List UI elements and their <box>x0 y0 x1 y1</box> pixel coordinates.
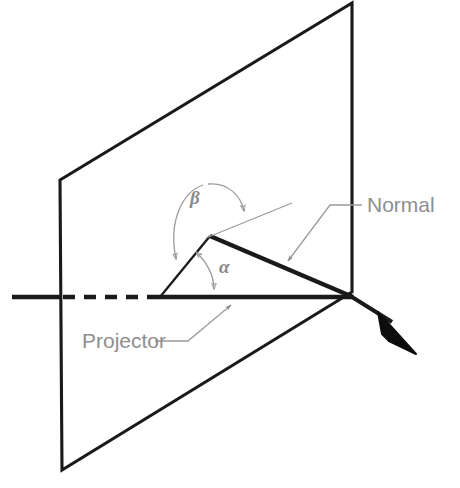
oblique-projection-diagram: β α Normal Projector <box>0 0 460 488</box>
projector-leader-line <box>155 305 231 341</box>
alpha-arc <box>196 252 214 289</box>
projector-annotation: Projector <box>82 305 231 352</box>
projector-beyond-plane <box>352 297 392 322</box>
normal-line <box>210 236 353 297</box>
normal-ray <box>210 236 353 297</box>
normal-extension-line <box>206 203 292 238</box>
projector-label: Projector <box>82 329 166 352</box>
diagram-canvas: β α Normal Projector <box>0 0 460 488</box>
beta-arc-right <box>208 184 244 211</box>
triangle-left-edge <box>160 236 210 297</box>
projector-ray <box>12 297 416 354</box>
normal-label: Normal <box>367 193 435 216</box>
projection-plane <box>60 3 352 470</box>
caption-remnant <box>214 470 460 488</box>
alpha-label: α <box>219 256 230 277</box>
plane-outline <box>60 3 352 470</box>
angle-alpha: α <box>196 252 230 289</box>
normal-annotation: Normal <box>288 193 435 261</box>
normal-extension <box>206 203 292 238</box>
angle-triangle-left-leg <box>160 236 210 297</box>
beta-label: β <box>189 187 200 208</box>
